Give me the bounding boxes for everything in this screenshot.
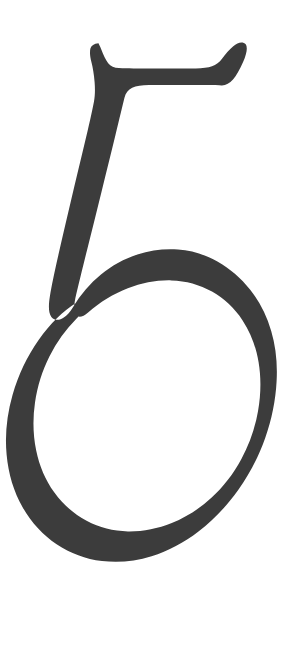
digit-five-path	[6, 42, 277, 561]
digit-five-icon	[0, 0, 298, 664]
glyph-canvas: 5	[0, 0, 298, 664]
